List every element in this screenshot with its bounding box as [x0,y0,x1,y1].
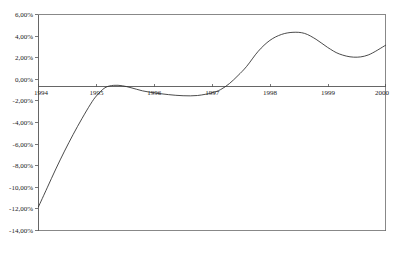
y-tick-label: -8,00% [13,162,34,170]
x-tick-label: 1999 [321,89,336,97]
y-tick-label: 6,00% [15,11,33,19]
x-tick-label: 2000 [375,89,390,97]
plot-frame [38,15,386,231]
y-tick-label: -2,00% [13,97,34,105]
y-tick-label: 2,00% [15,54,33,62]
y-tick-label: -6,00% [13,141,34,149]
y-tick-label: -14,00% [9,227,33,235]
y-tick-label: -10,00% [9,184,33,192]
chart-container: 6,00% 4,00% 2,00% 0,00% -2,00% -4,00% -6… [0,0,396,253]
x-tick-label: 1994 [34,89,49,97]
y-axis-labels: 6,00% 4,00% 2,00% 0,00% -2,00% -4,00% -6… [9,11,33,235]
line-chart: 6,00% 4,00% 2,00% 0,00% -2,00% -4,00% -6… [0,0,396,253]
y-tick-label: -12,00% [9,205,33,213]
y-tick-marks [35,15,38,231]
y-tick-label: 4,00% [15,33,33,41]
y-tick-label: -4,00% [13,119,34,127]
y-tick-label: 0,00% [15,76,33,84]
x-tick-label: 1998 [263,89,278,97]
data-series-line [39,32,386,206]
